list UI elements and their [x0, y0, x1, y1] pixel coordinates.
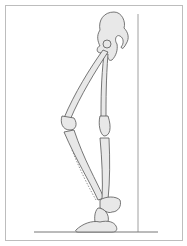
knee-front-icon	[61, 116, 76, 130]
leg-skeleton-diagram	[0, 0, 187, 246]
hip-joint	[103, 40, 111, 48]
foot-icon	[76, 221, 117, 232]
knee-back-icon	[99, 116, 110, 136]
tibia-back-icon	[100, 138, 110, 200]
tibia-front-icon	[64, 130, 104, 200]
femur-back-icon	[101, 54, 108, 118]
